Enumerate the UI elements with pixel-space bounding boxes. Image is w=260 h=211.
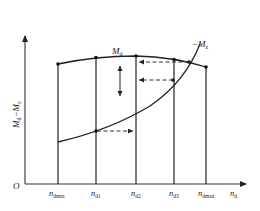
tick-nd3: nd3 [169,188,179,199]
speed-torque-diagram: O Md−Mz Md −Mz ndmin nd1 nd2 nd3 n [0,0,260,211]
tick-nd2: nd2 [131,188,141,199]
md-curve [58,56,206,67]
mz-label: −Mz [192,39,209,50]
md-point-ndmin [56,62,60,66]
md-point-nd3 [172,58,176,62]
tick-ndmin: ndmin [49,188,65,199]
origin-label: O [13,181,20,191]
md-point-ndmax [204,65,208,69]
md-label: Md [111,46,123,57]
md-point-nd2 [134,54,138,58]
tick-nd1: nd1 [91,188,101,199]
md-point-nd1 [94,56,98,60]
mz-curve [58,44,200,142]
tick-ndmax: ndmax [198,188,215,199]
y-axis-label: Md−Mz [11,101,22,129]
x-axis-label: nd [230,188,237,199]
